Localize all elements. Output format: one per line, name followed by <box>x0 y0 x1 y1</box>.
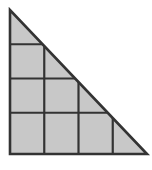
triangle-figure: Right triangle subdivided by a square gr… <box>0 0 152 170</box>
